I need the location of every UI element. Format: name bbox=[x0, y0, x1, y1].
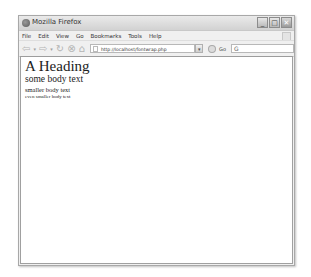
menu-help[interactable]: Help bbox=[149, 33, 162, 39]
menu-file[interactable]: File bbox=[22, 33, 31, 39]
url-input[interactable]: http://localhost/fontwrap.php bbox=[90, 44, 195, 53]
page-icon bbox=[93, 46, 98, 52]
page-content: A Heading some body text smaller body te… bbox=[20, 56, 293, 264]
page-heading: A Heading bbox=[25, 58, 90, 74]
close-button[interactable]: ✕ bbox=[281, 17, 292, 28]
navigation-toolbar: ⇦ ▾ ⇨ ▾ ↻ ⊗ ⌂ http://localhost/fontwrap.… bbox=[19, 40, 294, 57]
back-arrow-icon[interactable]: ⇦ bbox=[22, 44, 30, 54]
body-text: some body text bbox=[25, 74, 83, 85]
forward-dropdown-icon[interactable]: ▾ bbox=[50, 46, 53, 52]
menu-bar: File Edit View Go Bookmarks Tools Help bbox=[19, 31, 294, 40]
url-text: http://localhost/fontwrap.php bbox=[101, 47, 167, 52]
forward-arrow-icon[interactable]: ⇨ bbox=[39, 44, 47, 54]
window-controls: _ □ ✕ bbox=[257, 17, 292, 28]
search-input[interactable]: G bbox=[231, 44, 294, 53]
even-smaller-body-text: even smaller body text bbox=[25, 93, 70, 100]
firefox-icon bbox=[22, 19, 30, 27]
reload-icon[interactable]: ↻ bbox=[56, 44, 64, 54]
back-dropdown-icon[interactable]: ▾ bbox=[33, 46, 36, 52]
menu-bookmarks[interactable]: Bookmarks bbox=[91, 33, 122, 39]
menu-tools[interactable]: Tools bbox=[128, 33, 142, 39]
browser-window: Mozilla Firefox _ □ ✕ File Edit View Go … bbox=[18, 15, 295, 266]
minimize-button[interactable]: _ bbox=[257, 17, 268, 28]
go-button[interactable]: Go bbox=[219, 46, 226, 52]
go-icon[interactable] bbox=[208, 45, 216, 53]
title-bar[interactable]: Mozilla Firefox _ □ ✕ bbox=[19, 16, 294, 31]
menu-go[interactable]: Go bbox=[76, 33, 84, 39]
window-title: Mozilla Firefox bbox=[32, 18, 82, 26]
url-history-dropdown[interactable]: ▾ bbox=[195, 44, 203, 53]
maximize-button[interactable]: □ bbox=[269, 17, 280, 28]
stop-icon[interactable]: ⊗ bbox=[67, 44, 75, 54]
menu-view[interactable]: View bbox=[56, 33, 69, 39]
menu-edit[interactable]: Edit bbox=[38, 33, 49, 39]
search-engine-icon: G bbox=[234, 45, 239, 52]
home-icon[interactable]: ⌂ bbox=[79, 44, 85, 54]
